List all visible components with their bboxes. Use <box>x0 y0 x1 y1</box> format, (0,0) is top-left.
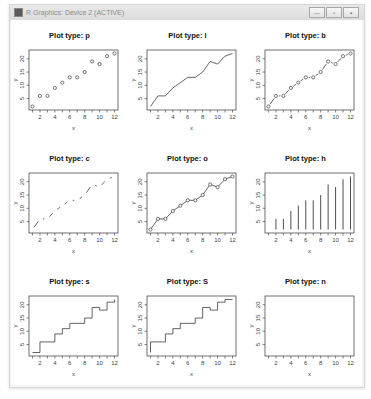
data-point <box>31 105 34 108</box>
x-tick-label: 10 <box>332 237 339 243</box>
x-tick-label: 6 <box>186 114 190 120</box>
data-point <box>274 94 277 97</box>
x-tick-label: 6 <box>304 237 308 243</box>
plot-area: 246810125101520xy <box>11 20 128 142</box>
r-app-icon <box>14 8 23 17</box>
x-tick-label: 8 <box>319 114 323 120</box>
x-tick-label: 12 <box>347 360 354 366</box>
data-point <box>289 86 292 89</box>
plot-frame <box>29 50 118 110</box>
x-tick-label: 8 <box>319 237 323 243</box>
y-tick-label: 15 <box>19 68 25 75</box>
data-point <box>68 76 71 79</box>
data-point <box>216 186 219 189</box>
y-tick-label: 10 <box>255 81 261 88</box>
data-point <box>194 199 197 202</box>
plot-area: 246810125101520xy <box>11 266 128 388</box>
data-point <box>319 70 322 73</box>
plot-area: 246810125101520xy <box>129 266 246 388</box>
y-tick-label: 15 <box>19 191 25 198</box>
close-icon: ▪ <box>350 10 352 16</box>
x-tick-label: 2 <box>38 237 42 243</box>
x-tick-label: 8 <box>319 360 323 366</box>
x-tick-label: 2 <box>156 237 160 243</box>
data-point <box>282 94 285 97</box>
x-tick-label: 8 <box>83 114 87 120</box>
x-tick-label: 12 <box>111 237 118 243</box>
x-tick-label: 12 <box>347 114 354 120</box>
plot-panel-b: Plot type: b246810125101520xy <box>247 20 364 142</box>
x-tick-label: 8 <box>201 237 205 243</box>
data-point <box>201 193 204 196</box>
data-point <box>83 70 86 73</box>
x-axis-label: x <box>190 248 193 254</box>
plot-area: 246810125101520xy <box>11 143 128 265</box>
data-series <box>33 300 115 353</box>
y-tick-label: 20 <box>19 178 25 185</box>
data-point <box>209 183 212 186</box>
plot-area: 246810125101520xy <box>129 143 246 265</box>
y-tick-label: 20 <box>255 301 261 308</box>
x-tick-label: 2 <box>156 360 160 366</box>
x-tick-label: 4 <box>289 114 293 120</box>
data-point <box>327 60 330 63</box>
data-series <box>149 175 234 231</box>
data-point <box>105 55 108 58</box>
y-tick-label: 15 <box>137 191 143 198</box>
y-tick-label: 10 <box>137 327 143 334</box>
y-tick-label: 10 <box>19 327 25 334</box>
x-tick-label: 12 <box>229 360 236 366</box>
x-tick-label: 10 <box>214 237 221 243</box>
minimize-button[interactable]: — <box>309 7 325 18</box>
x-tick-label: 10 <box>214 114 221 120</box>
y-tick-label: 20 <box>137 55 143 62</box>
x-axis-label: x <box>190 371 193 377</box>
title-bar[interactable]: R Graphics: Device 2 (ACTIVE) — ▫ ▪ <box>10 5 364 20</box>
plot-panel-o: Plot type: o246810125101520xy <box>129 143 246 265</box>
y-tick-label: 5 <box>19 219 25 223</box>
y-axis-label: y <box>248 202 254 205</box>
maximize-icon: ▫ <box>333 10 335 16</box>
plot-panel-l: Plot type: l246810125101520xy <box>129 20 246 142</box>
plot-panel-c: Plot type: c246810125101520xy <box>11 143 128 265</box>
data-point <box>46 94 49 97</box>
y-tick-label: 10 <box>19 81 25 88</box>
data-point <box>91 60 94 63</box>
plot-canvas: Plot type: p246810125101520xyPlot type: … <box>11 20 362 385</box>
data-series <box>151 300 233 353</box>
y-tick-label: 10 <box>19 204 25 211</box>
x-axis-label: x <box>308 125 311 131</box>
data-point <box>164 217 167 220</box>
x-tick-label: 10 <box>214 360 221 366</box>
data-point <box>297 81 300 84</box>
y-axis-label: y <box>248 325 254 328</box>
data-point <box>223 178 226 181</box>
x-tick-label: 10 <box>96 360 103 366</box>
maximize-button[interactable]: ▫ <box>326 7 342 18</box>
plot-area: 246810125101520xy <box>247 143 364 265</box>
plot-panel-n: Plot type: n246810125101520xy <box>247 266 364 388</box>
plot-panel-s: Plot type: s246810125101520xy <box>11 266 128 388</box>
data-series <box>151 54 233 107</box>
x-tick-label: 4 <box>171 237 175 243</box>
x-tick-label: 6 <box>304 360 308 366</box>
x-axis-label: x <box>72 248 75 254</box>
x-tick-label: 4 <box>171 114 175 120</box>
y-tick-label: 5 <box>19 96 25 100</box>
close-button[interactable]: ▪ <box>343 7 359 18</box>
data-point <box>349 52 352 55</box>
plot-frame <box>265 296 354 356</box>
x-tick-label: 6 <box>68 360 72 366</box>
x-tick-label: 10 <box>96 237 103 243</box>
x-tick-label: 8 <box>83 237 87 243</box>
x-tick-label: 2 <box>156 114 160 120</box>
x-tick-label: 4 <box>53 360 57 366</box>
x-tick-label: 4 <box>289 237 293 243</box>
plot-panel-S-upper: Plot type: S246810125101520xy <box>129 266 246 388</box>
data-point <box>231 175 234 178</box>
y-tick-label: 5 <box>255 219 261 223</box>
x-tick-label: 4 <box>53 114 57 120</box>
minimize-icon: — <box>314 10 320 16</box>
x-tick-label: 6 <box>68 237 72 243</box>
x-tick-label: 12 <box>111 360 118 366</box>
